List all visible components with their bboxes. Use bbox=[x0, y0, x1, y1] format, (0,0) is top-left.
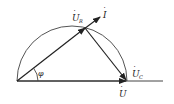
svg-text:R: R bbox=[78, 18, 83, 24]
svg-text:·: · bbox=[104, 4, 106, 12]
uc-label: U C · bbox=[132, 63, 143, 81]
phasor-diagram: U R · I · U C · U · φ bbox=[0, 0, 174, 104]
i-phasor bbox=[84, 17, 100, 29]
phi-label: φ bbox=[38, 69, 44, 78]
svg-text:·: · bbox=[121, 83, 123, 91]
i-label: I · bbox=[102, 4, 107, 20]
ur-label: U R · bbox=[72, 7, 83, 25]
svg-text:C: C bbox=[139, 74, 143, 80]
svg-text:U: U bbox=[119, 89, 127, 99]
semicircle-arc bbox=[17, 26, 127, 81]
svg-text:·: · bbox=[134, 63, 136, 71]
svg-text:·: · bbox=[74, 7, 76, 15]
u-label: U · bbox=[119, 83, 127, 100]
ur-phasor bbox=[17, 28, 85, 81]
